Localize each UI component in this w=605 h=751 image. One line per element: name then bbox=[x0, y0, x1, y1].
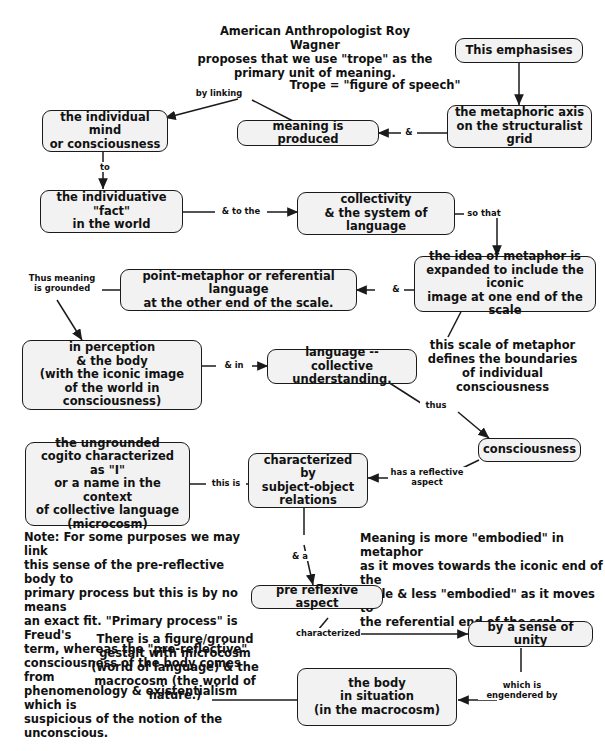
node-sense-of-unity[interactable]: by a sense of unity bbox=[468, 621, 593, 647]
node-collectivity[interactable]: collectivity & the system of language bbox=[297, 192, 455, 235]
edge-label-thus-meaning-is-grounded: Thus meaning is grounded bbox=[22, 273, 102, 293]
node-pre-reflexive-aspect[interactable]: pre reflexive aspect bbox=[251, 585, 383, 609]
edge-label-amp-2: & bbox=[388, 284, 404, 294]
note-intro: American Anthropologist Roy Wagner propo… bbox=[195, 24, 435, 80]
node-subject-object-relations[interactable]: characterized by subject-object relation… bbox=[248, 453, 368, 508]
note-gestalt: There is a figure/ground gestalt with mi… bbox=[80, 632, 270, 702]
edge-label-to: to bbox=[92, 162, 118, 172]
edge-label-thus: thus bbox=[420, 400, 452, 410]
node-point-metaphor[interactable]: point-metaphor or referential language a… bbox=[120, 269, 357, 311]
edge-label-which-is-engendered-by: which is engendered by bbox=[478, 680, 566, 700]
edge-label-so-that: so that bbox=[464, 208, 504, 218]
note-embodiment: Meaning is more "embodied" in metaphor a… bbox=[360, 531, 605, 629]
node-idea-of-metaphor[interactable]: the idea of metaphor is expanded to incl… bbox=[414, 256, 596, 312]
node-this-emphasises[interactable]: This emphasises bbox=[455, 38, 583, 63]
node-in-perception[interactable]: in perception & the body (with the iconi… bbox=[22, 340, 202, 410]
node-consciousness[interactable]: consciousness bbox=[478, 438, 581, 462]
edge-label-and-to-the: & to the bbox=[215, 206, 267, 216]
node-metaphoric-axis[interactable]: the metaphoric axis on the structuralist… bbox=[447, 105, 592, 148]
node-individuative-fact[interactable]: the individuative "fact" in the world bbox=[40, 190, 183, 233]
node-ungrounded-cogito[interactable]: the ungrounded cogito characterized as "… bbox=[25, 442, 190, 526]
edge-label-amp-1: & bbox=[401, 127, 417, 137]
edge-label-has-a-reflective-aspect: has a reflective aspect bbox=[388, 467, 466, 487]
edge-label-by-linking: by linking bbox=[188, 88, 250, 98]
edge-label-and-a: & a bbox=[286, 551, 314, 561]
note-trope-definition: Trope = "figure of speech" bbox=[255, 78, 495, 92]
edge-label-and-in: & in bbox=[216, 360, 252, 370]
node-body-in-situation[interactable]: the body in situation (in the macrocosm) bbox=[297, 668, 457, 726]
note-scale-boundaries: this scale of metaphor defines the bound… bbox=[420, 338, 585, 394]
node-meaning-is-produced[interactable]: meaning is produced bbox=[237, 120, 379, 146]
node-language-collective[interactable]: language -- collective understanding. bbox=[267, 349, 417, 384]
concept-map-canvas: American Anthropologist Roy Wagner propo… bbox=[0, 0, 605, 751]
edge-label-this-is: this is bbox=[206, 478, 246, 488]
node-individual-mind[interactable]: the individual mind or consciousness bbox=[42, 110, 168, 152]
edge-label-characterized: characterized bbox=[295, 628, 361, 638]
